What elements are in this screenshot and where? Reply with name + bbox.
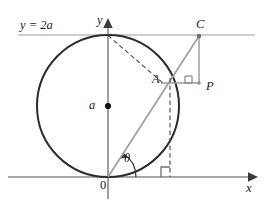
- point-P-dot: [197, 81, 201, 85]
- ray-origin-to-C: [108, 36, 199, 177]
- geometry-figure: y = 2a y x 0 a A C P θ: [0, 0, 265, 205]
- label-angle-theta: θ: [124, 152, 130, 165]
- label-point-A: A: [152, 73, 160, 86]
- label-y-axis: y: [97, 14, 103, 27]
- label-x-axis: x: [246, 182, 252, 195]
- point-C-dot: [197, 34, 202, 39]
- label-point-P: P: [206, 80, 214, 93]
- circle-center-dot: [105, 103, 111, 109]
- label-radius-a: a: [89, 99, 95, 112]
- label-y-equals-2a: y = 2a: [20, 19, 53, 32]
- right-angle-mark-x-axis: [161, 167, 170, 177]
- y-axis-arrowhead: [103, 18, 112, 28]
- label-point-C: C: [196, 18, 204, 31]
- label-origin: 0: [100, 179, 106, 192]
- right-angle-mark-at-P: [185, 76, 192, 83]
